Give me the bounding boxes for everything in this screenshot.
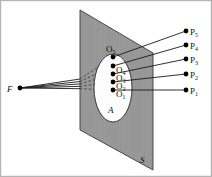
object-point-dot-4 (184, 43, 189, 48)
image-point-dot-1 (111, 88, 116, 93)
projection-diagram: F O1 O2 O3 O4 O5 (0, 0, 212, 177)
image-point-dot-3 (111, 72, 116, 77)
image-point-dot-5 (111, 55, 116, 60)
object-point-dot-3 (184, 57, 189, 62)
figure-canvas: F O1 O2 O3 O4 O5 (0, 0, 212, 177)
object-point-dot-5 (184, 29, 189, 34)
image-point-dot-2 (111, 80, 116, 85)
aperture-label: A (107, 105, 114, 115)
focus-point-dot (18, 86, 23, 91)
focus-point-label: F (6, 84, 13, 94)
object-point-dot-1 (184, 88, 189, 93)
image-point-dot-4 (111, 64, 116, 69)
object-point-dot-2 (184, 72, 189, 77)
plane-label: S (140, 155, 145, 165)
